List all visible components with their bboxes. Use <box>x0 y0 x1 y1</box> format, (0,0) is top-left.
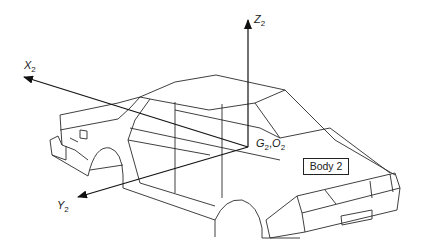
x-axis-label: X2 <box>24 60 36 74</box>
z-axis-label: Z2 <box>254 14 265 28</box>
coordinate-frame <box>24 20 248 197</box>
car-wireframe <box>50 75 400 238</box>
origin-label: G2,O2 <box>256 138 285 152</box>
y-axis-label: Y2 <box>57 200 69 214</box>
body-label-box: Body 2 <box>303 158 349 175</box>
y-axis <box>78 147 248 197</box>
